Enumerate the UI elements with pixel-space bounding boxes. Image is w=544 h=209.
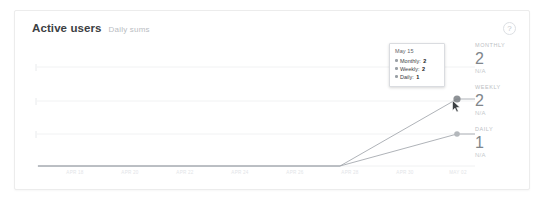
series-line-monthly [38, 99, 475, 166]
svg-text:APR 28: APR 28 [341, 170, 359, 175]
stat-label-daily: DAILY [475, 125, 529, 133]
legend-dot-monthly [395, 59, 398, 62]
legend-dot-weekly [395, 67, 398, 70]
chart-x-labels: APR 18 APR 20 APR 22 APR 24 APR 26 APR 2… [66, 170, 467, 175]
help-circle-icon[interactable]: ? [503, 22, 516, 35]
card-subtitle: Daily sums [109, 25, 150, 34]
svg-text:APR 30: APR 30 [396, 170, 414, 175]
tooltip-row-daily: Daily: 1 [395, 73, 439, 81]
stat-label-weekly: WEEKLY [475, 83, 529, 91]
tooltip-label-monthly: Monthly: [400, 57, 421, 65]
svg-text:MAY 02: MAY 02 [449, 170, 467, 175]
stat-monthly: MONTHLY 2 N/A [475, 41, 529, 75]
tooltip-row-monthly: Monthly: 2 [395, 57, 439, 65]
svg-text:APR 20: APR 20 [121, 170, 139, 175]
series-line-daily [38, 134, 475, 166]
card-header: Active users Daily sums ? [15, 11, 529, 45]
stat-label-monthly: MONTHLY [475, 41, 529, 49]
svg-text:APR 22: APR 22 [176, 170, 194, 175]
app-root: Active users Daily sums ? [0, 0, 544, 209]
legend-dot-daily [395, 75, 398, 78]
tooltip-value-weekly: 2 [422, 65, 425, 73]
svg-text:APR 24: APR 24 [231, 170, 249, 175]
svg-text:APR 26: APR 26 [286, 170, 304, 175]
stat-sub-weekly: N/A [475, 109, 529, 117]
tooltip-value-daily: 1 [416, 73, 419, 81]
chart-tooltip: May 15 Monthly: 2 Weekly: 2 Daily: 1 [389, 43, 445, 87]
stat-sub-monthly: N/A [475, 67, 529, 75]
svg-text:APR 18: APR 18 [66, 170, 84, 175]
stat-value-daily: 1 [475, 134, 529, 151]
tooltip-row-weekly: Weekly: 2 [395, 65, 439, 73]
tooltip-label-weekly: Weekly: [400, 65, 419, 73]
stat-weekly: WEEKLY 2 N/A [475, 83, 529, 117]
page-title: Active users [32, 22, 102, 34]
tooltip-label-daily: Daily: [400, 73, 414, 81]
tooltip-date: May 15 [395, 48, 439, 54]
tooltip-value-monthly: 2 [423, 57, 426, 65]
stats-rail: MONTHLY 2 N/A WEEKLY 2 N/A DAILY 1 N/A [469, 41, 529, 167]
stat-value-weekly: 2 [475, 92, 529, 109]
active-users-card: Active users Daily sums ? [14, 10, 530, 190]
stat-sub-daily: N/A [475, 151, 529, 159]
stat-daily: DAILY 1 N/A [475, 125, 529, 159]
card-title-group: Active users Daily sums [32, 22, 150, 34]
data-point-monthly [453, 95, 460, 102]
data-point-daily [454, 131, 460, 137]
stat-value-monthly: 2 [475, 50, 529, 67]
